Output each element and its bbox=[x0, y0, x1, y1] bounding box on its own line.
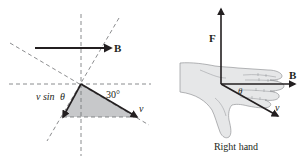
velocity-v-label: v bbox=[139, 103, 144, 114]
angle-theta-label: θ bbox=[238, 86, 243, 96]
left-vector-diagram: B v v sin θ 30° bbox=[9, 14, 151, 156]
component-vsintheta-label: v sin θ bbox=[36, 91, 65, 102]
shaded-triangle bbox=[63, 84, 137, 117]
right-hand-diagram: F B v θ Right hand bbox=[180, 9, 297, 152]
diagonal-dashed-line-steep bbox=[47, 18, 119, 141]
field-b-label-right: B bbox=[289, 69, 297, 81]
velocity-v-label-right: v bbox=[275, 102, 280, 113]
hand-palm bbox=[180, 63, 284, 138]
component-label-theta: θ bbox=[60, 91, 65, 102]
figure: B v v sin θ 30° F bbox=[0, 0, 302, 160]
right-hand-caption: Right hand bbox=[214, 141, 258, 152]
angle-30-label: 30° bbox=[106, 89, 120, 100]
component-label-prefix: v sin bbox=[36, 91, 55, 102]
field-b-label: B bbox=[114, 42, 122, 54]
force-f-label: F bbox=[209, 32, 216, 44]
right-hand-illustration bbox=[180, 63, 284, 138]
